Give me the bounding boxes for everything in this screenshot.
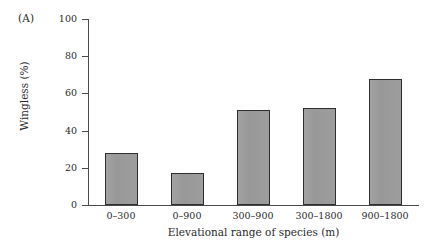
- y-axis-tick-label: 0: [51, 199, 77, 210]
- y-axis-tick: [82, 56, 88, 57]
- y-axis-tick-label-wrap: 40: [48, 125, 77, 137]
- y-axis-tick-label-wrap: 60: [48, 87, 77, 99]
- y-axis-tick-label-wrap: 0: [48, 199, 77, 211]
- bar-fill: [106, 154, 137, 204]
- y-axis-line: [88, 19, 89, 206]
- y-axis-tick-label-wrap: 20: [48, 162, 77, 174]
- y-axis-tick: [82, 93, 88, 94]
- y-axis-tick-label: 80: [51, 50, 77, 61]
- y-axis-tick: [82, 131, 88, 132]
- bar: [105, 153, 138, 205]
- y-axis-tick: [82, 205, 88, 206]
- y-axis-tick-label-wrap: 80: [48, 50, 77, 62]
- y-axis-title: Wingless (%): [18, 41, 30, 151]
- x-axis-tick-label: 300–900: [220, 210, 286, 221]
- y-axis-tick: [82, 19, 88, 20]
- y-axis-tick: [82, 168, 88, 169]
- x-axis-tick-label: 900–1800: [352, 210, 418, 221]
- bar-fill: [238, 111, 269, 204]
- y-axis-tick-label: 100: [51, 13, 77, 24]
- x-axis-title: Elevational range of species (m): [88, 226, 419, 238]
- bar: [369, 79, 402, 205]
- y-axis-tick-label: 40: [51, 125, 77, 136]
- bar: [303, 108, 336, 205]
- y-axis-tick-label-wrap: 100: [48, 13, 77, 25]
- figure-panel-a: (A) 020406080100 Wingless (%) 0–3000–900…: [0, 0, 433, 246]
- x-axis-tick-label: 300–1800: [286, 210, 352, 221]
- x-axis-tick-label: 0–900: [154, 210, 220, 221]
- y-axis-tick-label: 60: [51, 87, 77, 98]
- bar: [237, 110, 270, 205]
- y-axis-tick-label: 20: [51, 162, 77, 173]
- panel-label: (A): [18, 12, 34, 24]
- bar: [171, 173, 204, 205]
- x-axis-line: [88, 205, 419, 206]
- x-axis-tick-label: 0–300: [88, 210, 154, 221]
- bar-fill: [370, 80, 401, 204]
- bar-fill: [304, 109, 335, 204]
- bar-fill: [172, 174, 203, 204]
